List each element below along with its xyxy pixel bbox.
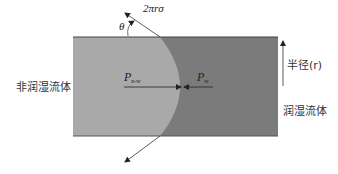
nonwetting-fluid-label: 非润湿流体: [16, 78, 71, 94]
contact-angle-label: θ: [119, 20, 124, 32]
pressure-nonwetting-label: Pn-w: [124, 70, 141, 85]
pressure-wetting-label: Pw: [197, 70, 209, 85]
tension-arrow-bottom: [125, 136, 160, 162]
pressure-wetting-sub: w: [204, 78, 208, 84]
radius-label: 半径(r): [287, 56, 322, 72]
contact-angle-arc: [128, 21, 134, 36]
tension-label: 2πrσ: [143, 2, 164, 14]
tension-arrow-top: [125, 13, 160, 37]
pressure-nonwetting-sub: n-w: [131, 78, 140, 84]
wetting-fluid-label: 润湿流体: [283, 102, 327, 118]
nonwetting-fluid-region: [73, 37, 180, 136]
